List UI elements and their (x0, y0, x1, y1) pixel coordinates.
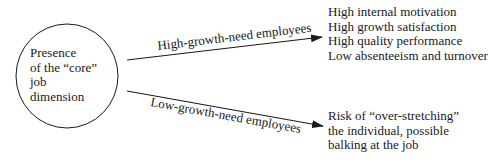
outcome-item: Low absenteeism and turnover (328, 49, 488, 64)
high-growth-outcomes: High internal motivation High growth sat… (328, 5, 488, 63)
low-growth-outcomes: Risk of “over-stretching” the individual… (328, 109, 459, 153)
outcome-item: High quality performance (328, 34, 488, 49)
core-dimension-line: dimension (30, 90, 97, 105)
outcome-item: High growth satisfaction (328, 20, 488, 35)
outcome-item: the individual, possible (328, 124, 459, 139)
outcome-item: balking at the job (328, 138, 459, 153)
high-growth-label: High-growth-need employees (157, 20, 313, 53)
outcome-item: High internal motivation (328, 5, 488, 20)
core-dimension-line: job (30, 75, 97, 90)
core-dimension-line: Presence (30, 46, 97, 61)
core-dimension-line: of the “core” (30, 61, 97, 76)
low-growth-label: Low-growth-need employees (149, 94, 302, 136)
core-dimension-text: Presence of the “core” job dimension (30, 46, 97, 104)
outcome-item: Risk of “over-stretching” (328, 109, 459, 124)
